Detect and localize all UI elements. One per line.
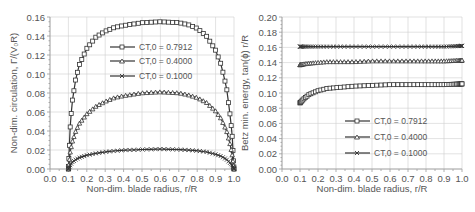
right-y-axis-label: Betz min. energy, tan(ϕ) r/R bbox=[239, 35, 250, 151]
y-tick-label: 0.06 bbox=[259, 118, 278, 129]
y-tick-label: 0.12 bbox=[27, 50, 46, 61]
x-tick-label: 0.0 bbox=[43, 173, 56, 184]
x-tick-label: 0.0 bbox=[275, 173, 288, 184]
figure: 0.00.10.20.30.40.50.60.70.80.91.00.000.0… bbox=[0, 0, 475, 212]
legend-label: CT,0 = 0.1000 bbox=[139, 71, 192, 81]
x-tick-label: 0.9 bbox=[209, 173, 222, 184]
y-tick-label: 0.14 bbox=[259, 57, 278, 68]
legend-label: CT,0 = 0.7912 bbox=[139, 42, 192, 52]
square-marker-icon bbox=[355, 119, 359, 123]
y-tick-label: 0.18 bbox=[259, 27, 278, 38]
x-tick-label: 1.0 bbox=[455, 173, 468, 184]
legend-label: CT,0 = 0.1000 bbox=[374, 148, 427, 158]
y-tick-label: 0.12 bbox=[259, 72, 278, 83]
y-tick-label: 0.04 bbox=[259, 133, 278, 144]
legend-label: CT,0 = 0.4000 bbox=[374, 132, 427, 142]
left-y-axis-label: Non-dim. circulation, Γ/(V₀R) bbox=[8, 33, 19, 154]
y-tick-label: 0.16 bbox=[27, 12, 46, 23]
legend-label: CT,0 = 0.7912 bbox=[374, 116, 427, 126]
series-x bbox=[66, 147, 236, 171]
series-triangle bbox=[66, 90, 236, 171]
left-x-axis-label: Non-dim. blade radius, r/R bbox=[87, 183, 198, 194]
x-tick-label: 0.1 bbox=[62, 173, 75, 184]
y-tick-label: 0.10 bbox=[27, 69, 46, 80]
right-legend: CT,0 = 0.7912 CT,0 = 0.4000 CT,0 = 0.100… bbox=[345, 116, 427, 158]
y-tick-label: 0.10 bbox=[259, 88, 278, 99]
x-tick-label: 0.9 bbox=[437, 173, 450, 184]
x-tick-label: 1.0 bbox=[227, 173, 240, 184]
square-marker-icon bbox=[120, 45, 124, 49]
right-chart-betz-energy: 0.00.10.20.30.40.50.60.70.80.91.00.000.0… bbox=[259, 12, 469, 185]
series-triangle bbox=[298, 58, 464, 67]
y-tick-label: 0.08 bbox=[27, 88, 46, 99]
y-tick-label: 0.00 bbox=[27, 164, 46, 175]
left-legend: CT,0 = 0.7912 CT,0 = 0.4000 CT,0 = 0.100… bbox=[110, 42, 192, 81]
y-tick-label: 0.02 bbox=[27, 145, 46, 156]
y-tick-label: 0.04 bbox=[27, 126, 46, 137]
y-tick-label: 0.14 bbox=[27, 31, 46, 42]
right-x-axis-label: Non-dim. blade radius, r/R bbox=[317, 183, 428, 194]
y-tick-label: 0.16 bbox=[259, 42, 278, 53]
left-chart-circulation: 0.00.10.20.30.40.50.60.70.80.91.00.000.0… bbox=[27, 12, 241, 185]
y-tick-label: 0.20 bbox=[259, 12, 278, 23]
y-tick-label: 0.08 bbox=[259, 103, 278, 114]
series-x bbox=[298, 44, 464, 49]
y-tick-label: 0.00 bbox=[259, 164, 278, 175]
series-square bbox=[298, 82, 464, 105]
y-tick-label: 0.02 bbox=[259, 148, 278, 159]
legend-label: CT,0 = 0.4000 bbox=[139, 56, 192, 66]
x-tick-label: 0.1 bbox=[293, 173, 306, 184]
y-tick-label: 0.06 bbox=[27, 107, 46, 118]
